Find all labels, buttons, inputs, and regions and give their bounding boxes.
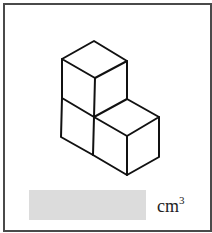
- unit-base: cm: [157, 196, 179, 216]
- answer-input-box[interactable]: [29, 190, 146, 220]
- right-cube-top-face: [94, 99, 159, 136]
- right-cube-left-face: [93, 136, 127, 175]
- unit-label: cm3: [157, 196, 185, 216]
- unit-exponent: 3: [179, 194, 185, 206]
- top-cube-top-face: [62, 41, 127, 78]
